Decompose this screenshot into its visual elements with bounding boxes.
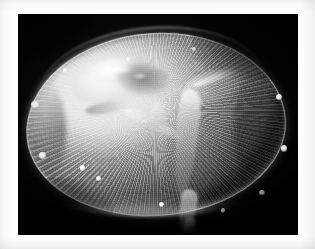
marginal-bulb <box>159 202 164 207</box>
photo-corner-shadow <box>192 14 298 80</box>
photo-page <box>0 0 315 249</box>
bell-rim-right-shadow <box>234 63 296 196</box>
marginal-bulb <box>276 94 282 100</box>
photo-bottom-shadow <box>18 208 298 235</box>
marginal-bulb <box>39 152 46 159</box>
marginal-bulb <box>126 57 130 61</box>
photo-corner-shadow <box>18 14 91 63</box>
bell-rim-left-shadow <box>21 80 66 182</box>
marginal-bulb <box>281 145 287 151</box>
marginal-bulb <box>63 68 67 72</box>
marginal-bulb <box>80 165 86 170</box>
photograph <box>18 14 298 235</box>
